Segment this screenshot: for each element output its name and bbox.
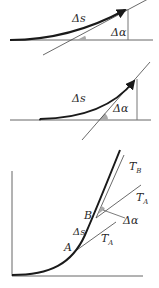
point-a-label: A [63, 241, 72, 254]
tangent-line [82, 62, 150, 140]
angle-label: Δα [122, 214, 139, 227]
angle-leader [103, 210, 125, 218]
start-dot [39, 119, 41, 121]
arc-label: Δs [71, 12, 86, 25]
panel-middle: Δs Δα [10, 62, 151, 140]
arc-label: Δs [71, 92, 86, 105]
arc-label: Δs [72, 226, 85, 237]
tangent-b-label: TB [129, 160, 142, 175]
angle-label: Δα [112, 102, 129, 115]
arc-curve [10, 10, 125, 40]
curvature-diagram: Δs Δα Δs Δα B Δs A Δα TB [0, 0, 159, 288]
panel-top: Δs Δα [10, 0, 153, 55]
tangent-line [43, 0, 148, 55]
tangent-a-lower-label: TA [101, 232, 113, 247]
point-b-label: B [83, 209, 92, 222]
tangent-a-upper-label: TA [136, 191, 148, 206]
panel-bottom: B Δs A Δα TB TA TA [12, 150, 148, 276]
tangent-b [96, 155, 124, 218]
angle-label: Δα [110, 26, 127, 39]
